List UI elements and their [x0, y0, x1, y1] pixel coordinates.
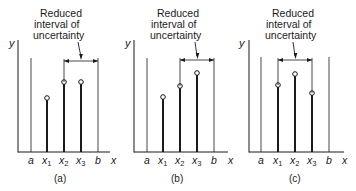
label-a: a	[144, 154, 150, 166]
label-b: b	[211, 154, 217, 166]
x-axis-label: x	[227, 154, 234, 166]
label-a: a	[28, 154, 34, 166]
label-a: a	[258, 154, 264, 166]
bracket-arrow-left	[180, 58, 185, 62]
point-x1	[161, 95, 166, 100]
panel-caption-b: (b)	[171, 173, 183, 184]
point-x1	[45, 96, 50, 101]
label-x2: x2	[289, 154, 299, 168]
label-b: b	[326, 154, 332, 166]
label-x2: x2	[174, 154, 184, 168]
pointer-arrowhead	[196, 53, 200, 59]
x-axis-label: x	[110, 154, 117, 166]
bracket-arrow-left	[64, 59, 69, 63]
point-x3	[195, 71, 200, 76]
pointer-arrowhead	[79, 54, 83, 60]
bracket-arrow-right	[209, 58, 214, 62]
label-x1: x1	[157, 154, 167, 168]
label-x3: x3	[306, 154, 316, 168]
bracket-arrow-right	[93, 59, 98, 63]
label-x3: x3	[191, 154, 201, 168]
uncertainty-interval-diagram: Reduced interval of uncertainty y a x1 x…	[0, 0, 356, 191]
panel-caption-a: (a)	[54, 173, 66, 184]
panel-b: Reduced interval of uncertainty y a x1 x…	[124, 7, 234, 184]
panel-caption-c: (c)	[289, 173, 301, 184]
tick-labels: a x1 x2 x3 b x	[258, 154, 348, 168]
bracket-arrow-left	[278, 58, 283, 62]
bracket-arrow-right	[307, 58, 312, 62]
x-axis-label: x	[341, 154, 348, 166]
label-x1: x1	[41, 154, 51, 168]
annotation-line3: uncertainty	[150, 29, 202, 41]
pointer-arrowhead	[294, 53, 298, 59]
point-x3	[79, 80, 84, 85]
annotation-line3: uncertainty	[33, 29, 85, 41]
panel-c: Reduced interval of uncertainty y a x1 x…	[238, 7, 348, 184]
label-x2: x2	[58, 154, 68, 168]
y-axis-label: y	[8, 37, 16, 49]
panel-a: Reduced interval of uncertainty y a x1 x…	[8, 7, 117, 184]
annotation-line3: uncertainty	[265, 29, 317, 41]
point-x2	[293, 72, 298, 77]
y-axis-label: y	[124, 37, 132, 49]
y-axis-label: y	[238, 37, 246, 49]
tick-labels: a x1 x2 x3 b x	[28, 154, 117, 168]
tick-labels: a x1 x2 x3 b x	[144, 154, 234, 168]
label-b: b	[95, 154, 101, 166]
label-x1: x1	[272, 154, 282, 168]
label-x3: x3	[75, 154, 85, 168]
